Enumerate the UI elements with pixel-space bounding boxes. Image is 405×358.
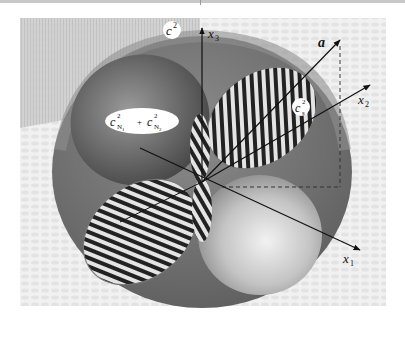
striped-lobe-center-top: [190, 114, 210, 182]
svg-text:x: x: [357, 92, 364, 107]
svg-text:x: x: [342, 251, 349, 266]
svg-text:c: c: [147, 115, 153, 129]
striped-lobe-center-bottom: [192, 178, 212, 242]
svg-text:2: 2: [173, 21, 177, 30]
label-cn1-plus-cn2: c 2 N 1 + c 2 N 2: [105, 108, 179, 134]
svg-text:2: 2: [365, 100, 369, 109]
lobe-lower-right: [198, 175, 322, 295]
svg-text:s: s: [302, 109, 305, 117]
svg-text:2: 2: [117, 112, 121, 120]
svg-text:c: c: [110, 115, 116, 129]
svg-text:3: 3: [215, 34, 219, 43]
wave-surface-diagram: c 2 x 3 a x 2 x 1 c 2 s c 2 N 1 + c 2 N …: [0, 0, 405, 358]
svg-text:c: c: [295, 101, 301, 115]
label-c-squared: c 2: [163, 21, 181, 39]
svg-text:2: 2: [154, 112, 158, 120]
svg-text:+: +: [137, 117, 142, 127]
svg-text:2: 2: [302, 98, 306, 106]
svg-text:x: x: [207, 26, 214, 41]
svg-text:a: a: [318, 35, 325, 50]
label-vector-a: a: [318, 35, 325, 50]
svg-text:c: c: [166, 23, 172, 38]
svg-text:1: 1: [350, 259, 354, 268]
